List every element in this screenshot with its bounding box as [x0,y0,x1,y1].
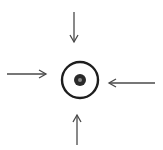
convergence-diagram [0,0,163,150]
target-icon [62,62,98,98]
target-dot-center [78,78,82,82]
